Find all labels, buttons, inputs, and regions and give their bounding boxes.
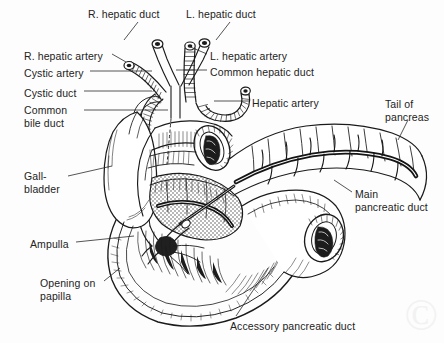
duodenum-upper-segment — [152, 120, 236, 175]
label-ampulla: Ampulla — [30, 238, 69, 251]
left-hepatic-artery-vessel — [184, 42, 196, 102]
right-hepatic-artery-vessel — [124, 62, 166, 100]
label-l-hepatic-duct: L. hepatic duct — [186, 8, 256, 21]
gallbladder-organ — [104, 112, 157, 228]
leader-l-hepatic-duct — [216, 22, 230, 40]
duodenum-cut-end-lower — [242, 190, 349, 278]
leader-r-hepatic-artery — [112, 54, 126, 62]
pancreas-head — [150, 173, 243, 240]
leader-ampulla — [76, 236, 134, 242]
label-opening-on-papilla: Opening on papilla — [40, 277, 95, 302]
leader-main-pancreatic-duct — [334, 180, 352, 192]
leader-tail-of-pancreas — [398, 120, 408, 140]
hepatic-artery-vessel — [196, 86, 251, 121]
label-main-pancreatic-duct: Main pancreatic duct — [355, 188, 428, 213]
label-hepatic-artery: Hepatic artery — [252, 97, 319, 110]
leader-r-hepatic-duct — [124, 22, 138, 40]
label-r-hepatic-duct: R. hepatic duct — [88, 8, 160, 21]
label-gallbladder: Gall- bladder — [24, 170, 60, 195]
label-accessory-pancreatic-duct: Accessory pancreatic duct — [230, 320, 355, 333]
watermark: © — [405, 290, 438, 341]
label-common-hepatic-duct: Common hepatic duct — [210, 66, 314, 79]
label-l-hepatic-artery: L. hepatic artery — [210, 50, 287, 63]
label-tail-of-pancreas: Tail of pancreas — [385, 98, 429, 123]
anatomy-figure: R. hepatic ductL. hepatic ductR. hepatic… — [0, 0, 444, 343]
label-r-hepatic-artery: R. hepatic artery — [24, 50, 103, 63]
label-common-bile-duct: Common bile duct — [24, 104, 67, 129]
label-cystic-artery: Cystic artery — [24, 67, 84, 80]
label-cystic-duct: Cystic duct — [24, 87, 77, 100]
